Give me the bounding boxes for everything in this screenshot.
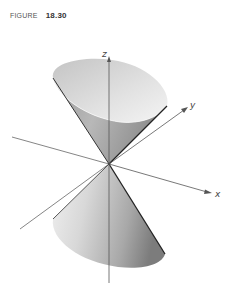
upper-cone-opening — [53, 59, 168, 123]
double-cone-diagram: z y x — [0, 0, 233, 300]
z-axis-arrowhead — [107, 56, 111, 62]
upper-cone — [53, 59, 168, 164]
y-axis-arrowhead — [181, 107, 188, 113]
x-axis-label: x — [214, 189, 221, 199]
y-axis-label: y — [189, 100, 196, 110]
z-axis-label: z — [101, 49, 107, 59]
x-axis-arrowhead — [204, 190, 212, 195]
